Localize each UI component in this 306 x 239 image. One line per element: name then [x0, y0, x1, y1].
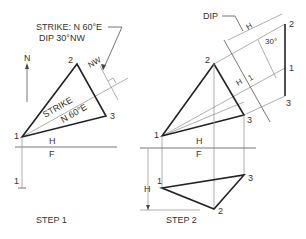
north-label: N	[24, 53, 31, 63]
front-point-1-label: 1	[157, 176, 162, 186]
fold-aux-1-label: 1	[247, 72, 256, 82]
fold-lower-label: F	[49, 149, 55, 159]
strike-dip-diagram: STRIKE: N 60°E DIP 30°NW N NW STRIKE N 6…	[0, 0, 306, 239]
front-point-2-label: 2	[218, 206, 223, 216]
top-point-3-label: 3	[247, 115, 252, 125]
callout-strike: STRIKE: N 60°E	[36, 22, 102, 32]
aux-projector-1	[162, 68, 285, 136]
step1-caption: STEP 1	[36, 215, 67, 225]
fold-upper-label-step2: H	[196, 136, 203, 146]
fold-aux-h-label: H	[235, 77, 245, 88]
callout-leader	[103, 27, 122, 70]
dip-direction-line	[100, 66, 118, 100]
front-point-3-label: 3	[248, 173, 253, 183]
front-h-dim-label: H	[144, 184, 151, 194]
plane-triangle-front-view	[162, 175, 244, 209]
step2-group: H 1 H DIP 30° 2 1 3 2 3 1 H F H	[140, 11, 294, 225]
plane-triangle-top-view-step2	[162, 64, 244, 136]
right-angle-mark	[108, 78, 116, 83]
point-1-front-label: 1	[14, 176, 19, 186]
fold-lower-label-step2: F	[196, 149, 202, 159]
aux-point-3-label: 3	[286, 98, 291, 108]
point-2-label: 2	[68, 55, 73, 65]
callout-dip: DIP 30°NW	[39, 33, 85, 43]
top-point-2-label: 2	[205, 55, 210, 65]
angle-label: 30°	[265, 37, 277, 46]
north-arrowhead-icon	[25, 63, 29, 69]
aux-point-1-label: 1	[289, 63, 294, 73]
fold-line-h1	[224, 40, 270, 122]
aux-point-2-label: 2	[289, 19, 294, 29]
point-3-label: 3	[110, 111, 115, 121]
top-point-1-label: 1	[154, 130, 159, 140]
point-1-label: 1	[14, 131, 19, 141]
dimension-arrow-icon	[146, 205, 150, 210]
step1-group: STRIKE: N 60°E DIP 30°NW N NW STRIKE N 6…	[14, 22, 128, 225]
dip-leader	[222, 16, 243, 31]
fold-upper-label: H	[49, 136, 56, 146]
step2-caption: STEP 2	[166, 215, 197, 225]
dip-label: DIP	[203, 11, 218, 21]
aux-h-dim-label: H	[245, 21, 255, 32]
